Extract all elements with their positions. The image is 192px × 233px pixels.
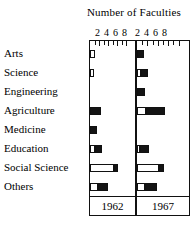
bar-segment-solid [141,69,148,77]
bar-segment-open [137,107,146,115]
bar-segment-solid [98,183,108,191]
bar-row [137,142,189,156]
chart-title: Number of Faculties [76,6,192,18]
tick-mark-minor [142,41,143,45]
bar-row [137,104,189,118]
year-label-1967: 1967 [136,198,190,215]
tick-label: 4 [102,27,111,38]
bar-row [90,47,135,61]
footer-divider-1967 [136,196,190,197]
category-axis-labels: ArtsScienceEngineeringAgricultureMedicin… [2,46,88,198]
category-label: Social Science [4,160,87,174]
bar-row [90,104,135,118]
panel-1967 [136,40,190,216]
bar-segment-solid [90,126,97,134]
bar-segment-open [90,50,95,58]
bar-row [137,161,189,175]
category-label: Engineering [4,84,87,98]
tick-mark [126,41,127,46]
tick-label: 2 [93,27,102,38]
bar-segment-solid [137,88,145,96]
tick-label: 8 [120,27,129,38]
bar-row [90,85,135,99]
bar-segment-solid [90,107,101,115]
tick-marks-1962 [90,41,135,46]
bar-segment-open [137,164,159,172]
tick-mark-minor [173,41,174,45]
tick-mark-minor [95,41,96,45]
bar-row [90,180,135,194]
plot-area-1962 [90,47,135,199]
bar-segment-open [90,164,114,172]
footer-divider-1962 [89,196,136,197]
bar-segment-solid [145,183,156,191]
bar-row [90,123,135,137]
x-axis-tick-labels-1967: 2 4 6 8 [133,26,169,39]
panel-1962 [89,40,136,216]
category-label: Others [4,179,87,193]
x-axis-tick-labels-1962: 2 4 6 8 [93,26,129,39]
tick-mark [147,41,148,46]
category-label: Medicine [4,122,87,136]
bar-row [137,66,189,80]
tick-mark-minor [122,41,123,45]
tick-mark-minor [153,41,154,45]
bar-row [137,85,189,99]
category-label: Science [4,65,87,79]
chart-figure: Number of Faculties 2 4 6 8 2 4 6 8 Arts… [0,0,192,233]
tick-mark [158,41,159,46]
year-label-1962: 1962 [89,198,136,215]
tick-mark [179,41,180,46]
bar-segment-solid [140,145,149,153]
tick-mark-minor [113,41,114,45]
tick-mark-minor [163,41,164,45]
tick-mark [117,41,118,46]
bar-segment-solid [146,107,165,115]
bar-segment-solid [95,145,102,153]
bar-row [137,47,189,61]
tick-mark [168,41,169,46]
category-label: Arts [4,46,87,60]
plot-area-1967 [137,47,189,199]
tick-mark [108,41,109,46]
bar-row [137,180,189,194]
bar-row [137,123,189,137]
tick-label: 4 [142,27,151,38]
bar-segment-open [90,69,94,77]
tick-label: 2 [133,27,142,38]
category-label: Agriculture [4,103,87,117]
tick-marks-1967 [137,41,189,46]
tick-label: 8 [160,27,169,38]
bar-segment-solid [114,164,118,172]
bar-segment-open [137,183,145,191]
bar-segment-solid [137,50,144,58]
tick-mark [99,41,100,46]
tick-mark-minor [104,41,105,45]
bar-row [90,66,135,80]
bar-segment-open [90,183,98,191]
tick-label: 6 [111,27,120,38]
bar-segment-solid [159,164,164,172]
bar-row [90,142,135,156]
category-label: Education [4,141,87,155]
bar-row [90,161,135,175]
tick-label: 6 [151,27,160,38]
